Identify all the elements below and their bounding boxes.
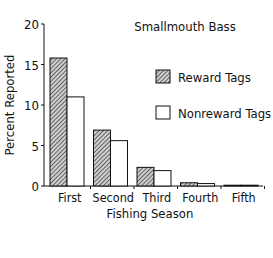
legend-swatch-reward [156,70,170,83]
y-tick-label: 5 [32,139,39,154]
x-tick-label: First [58,190,82,205]
legend-swatch-nonreward [156,106,170,119]
bar-nonreward [198,184,215,186]
x-tick-label: Fourth [182,190,218,205]
bar-nonreward [67,97,84,186]
y-tick-label: 20 [24,17,39,32]
bar-nonreward [111,141,128,186]
x-tick-label: Third [141,190,171,205]
x-tick-label: Second [93,190,134,205]
bar-reward [181,183,198,186]
bar-reward [224,185,241,186]
y-tick-label: 0 [32,179,39,194]
y-axis-label: Percent Reported [2,55,17,156]
y-tick-label: 10 [24,98,39,113]
x-tick-label: Fifth [232,190,256,205]
bar-reward [94,130,111,186]
bar-reward [50,58,67,186]
y-axis-ticks: 05101520 [24,17,44,194]
bar-nonreward [241,185,258,186]
y-tick-label: 15 [24,58,39,73]
legend-label-reward: Reward Tags [178,70,251,85]
chart-title: Smallmouth Bass [134,19,236,34]
bar-nonreward [154,171,171,186]
bar-reward [137,167,154,186]
legend: Reward Tags Nonreward Tags [156,70,271,121]
x-axis-label: Fishing Season [107,206,194,221]
x-axis-ticks: FirstSecondThirdFourthFifth [58,186,265,205]
chart-canvas: Smallmouth Bass 05101520 Percent Reporte… [0,0,273,258]
legend-label-nonreward: Nonreward Tags [178,106,271,121]
